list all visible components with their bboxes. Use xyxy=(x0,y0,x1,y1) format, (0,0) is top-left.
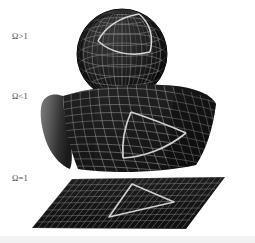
universe-geometry-figure xyxy=(0,0,255,243)
label-omega-equals-one: Ω=1 xyxy=(12,173,28,183)
label-omega-less-than-one: Ω<1 xyxy=(12,91,28,101)
scan-edge-band xyxy=(0,236,255,243)
panel-open-saddle xyxy=(41,84,220,176)
label-omega-greater-than-one: Ω>1 xyxy=(12,31,28,41)
